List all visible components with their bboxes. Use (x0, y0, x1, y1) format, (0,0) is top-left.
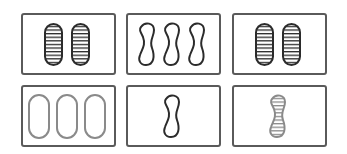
oval-triple-icon (23, 87, 114, 145)
card-three-dark-outlined-squiggles[interactable] (126, 13, 221, 75)
squiggle-icon (128, 87, 219, 145)
squiggle-triple-icon (128, 15, 219, 73)
card-three-gray-outlined-ovals[interactable] (21, 85, 116, 147)
oval-pair-icon (23, 15, 114, 73)
card-one-gray-striped-squiggle[interactable] (232, 85, 327, 147)
card-one-dark-outlined-squiggle[interactable] (126, 85, 221, 147)
squiggle-icon (234, 87, 325, 145)
card-two-dark-striped-ovals[interactable] (21, 13, 116, 75)
card-two-dark-striped-ovals[interactable] (232, 13, 327, 75)
oval-pair-icon (234, 15, 325, 73)
